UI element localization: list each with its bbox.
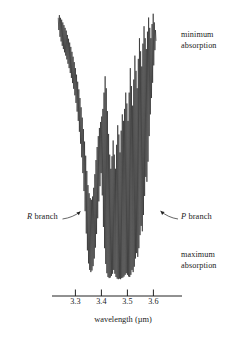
axis-tick-label: 3.4 — [96, 297, 106, 306]
axis-tick-label: 3.5 — [122, 297, 132, 306]
p-branch-label: P branch — [181, 212, 212, 223]
minimum-absorption-line-1: minimum — [181, 30, 217, 41]
x-axis — [52, 290, 182, 297]
spectrum-figure: minimum absorption maximum absorption R … — [0, 0, 246, 339]
axis-ticks — [75, 290, 153, 297]
axis-title: wavelength (µm) — [0, 315, 246, 324]
spectrum-trace-group — [58, 14, 156, 279]
r-branch-pointer — [63, 212, 81, 220]
r-branch-label: R branch — [27, 212, 58, 223]
p-branch-text: branch — [186, 212, 212, 221]
r-branch-text: branch — [32, 212, 58, 221]
axis-tick-label: 3.6 — [148, 297, 158, 306]
minimum-absorption-label: minimum absorption — [181, 30, 217, 51]
axis-tick-label: 3.3 — [70, 297, 80, 306]
minimum-absorption-line-2: absorption — [181, 41, 217, 52]
p-branch-pointer — [161, 211, 179, 219]
spectrum-trace — [58, 14, 156, 279]
maximum-absorption-label: maximum absorption — [181, 250, 217, 271]
maximum-absorption-line-1: maximum — [181, 250, 217, 261]
maximum-absorption-line-2: absorption — [181, 261, 217, 272]
